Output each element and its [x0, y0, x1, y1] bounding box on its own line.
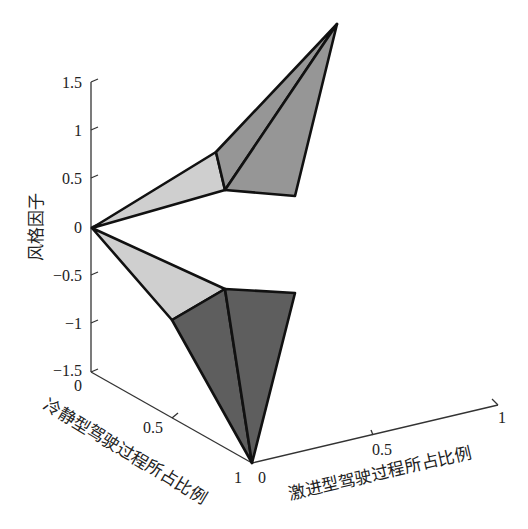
y-tick-label: 1 — [498, 409, 506, 426]
z-tick-label: 0.5 — [62, 170, 82, 187]
x-axis-title: 冷静型驾驶过程所占比例 — [40, 394, 211, 507]
surface-lower — [92, 228, 295, 463]
y-tick-label: 0 — [258, 469, 266, 486]
surface-face — [92, 152, 225, 228]
surface-face — [225, 24, 337, 196]
x-tick-label: 1 — [234, 469, 242, 486]
z-tick-label: −1 — [65, 315, 82, 332]
surface-upper — [92, 24, 337, 228]
z-tick-labels: 1.5 1 0.5 0 −0.5 −1 −1.5 — [53, 74, 82, 379]
z-tick-label: 1.5 — [62, 74, 82, 91]
z-tick-label: 0 — [74, 219, 82, 236]
x-tick-0.5 — [172, 413, 178, 418]
x-tick-label: 0 — [74, 377, 82, 394]
y-tick-1 — [492, 399, 498, 405]
z-tick-label: 1 — [74, 122, 82, 139]
z-tick-label: −0.5 — [53, 267, 82, 284]
y-tick-label: 0.5 — [372, 441, 392, 458]
surface-chart: 1.5 1 0.5 0 −0.5 −1 −1.5 0 0.5 1 0 0.5 1… — [0, 0, 528, 529]
surfaces — [92, 24, 337, 463]
x-tick-label: 0.5 — [143, 419, 163, 436]
z-axis-title: 风格因子 — [26, 193, 46, 261]
